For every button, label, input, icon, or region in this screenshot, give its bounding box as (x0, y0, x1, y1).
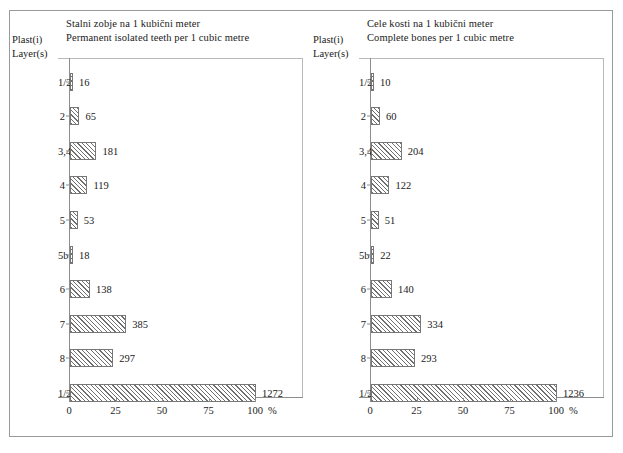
bar-row-label: 3,4 (58, 145, 65, 156)
bar-row: 6140 (359, 274, 604, 305)
bar (371, 315, 421, 333)
plot-area-right: 1/2102603,420441225515b226140733482931/2… (359, 58, 604, 398)
bar-row-label: 1/2 - 8 (359, 387, 366, 398)
bar-row-label: 3,4 (359, 145, 366, 156)
panel-container: Stalni zobje na 1 kubični meter Permanen… (10, 11, 612, 436)
x-axis-tick (209, 398, 210, 402)
x-axis-tick-label: 25 (110, 405, 121, 416)
bar (70, 176, 87, 194)
bar-value-label: 297 (113, 353, 135, 364)
bar-row: 8297 (58, 343, 303, 374)
bar-row: 1/210 (359, 66, 604, 97)
bar-rows-right: 1/2102603,420441225515b226140733482931/2… (359, 58, 604, 398)
bar-row-label: 5 (359, 214, 366, 225)
bar (70, 211, 78, 229)
plot-area-left: 1/2162653,418141195535b186138738582971/2… (58, 58, 303, 398)
figure-frame: Stalni zobje na 1 kubični meter Permanen… (9, 10, 613, 437)
x-axis-tick (116, 398, 117, 402)
bar-value-label: 65 (79, 111, 96, 122)
y-axis-caption-left-sl: Plast(i) (12, 33, 48, 47)
panel-title-right-en: Complete bones per 1 cubic metre (367, 31, 514, 45)
bar-row-label: 5b (58, 249, 65, 260)
bar (70, 280, 90, 298)
bar-row-label: 8 (58, 353, 65, 364)
bar-row-label: 1/2 (58, 76, 65, 87)
bar-row: 1/216 (58, 66, 303, 97)
x-axis-tick (69, 398, 70, 402)
bar-value-label: 16 (73, 76, 90, 87)
chart-panel-complete-bones: Cele kosti na 1 kubični meter Complete b… (311, 11, 612, 436)
bar-row: 5b22 (359, 239, 604, 270)
y-axis-caption-right-sl: Plast(i) (313, 33, 349, 47)
bar-value-label: 122 (389, 180, 411, 191)
x-axis-tick-label: 50 (458, 405, 469, 416)
bar-row-label: 2 (359, 111, 366, 122)
bar-value-label: 293 (415, 353, 437, 364)
bar-value-label: 51 (379, 214, 396, 225)
bar-row: 7385 (58, 308, 303, 339)
bar-row: 6138 (58, 274, 303, 305)
x-axis-tick (463, 398, 464, 402)
x-axis-tick-label: 75 (504, 405, 515, 416)
bar (371, 349, 415, 367)
bar-row: 5b18 (58, 239, 303, 270)
x-axis-tick-label: 0 (367, 405, 372, 416)
bar-row-label: 1/2 (359, 76, 366, 87)
chart-panel-permanent-isolated-teeth: Stalni zobje na 1 kubični meter Permanen… (10, 11, 311, 436)
bar-row-label: 4 (359, 180, 366, 191)
panel-title-right: Cele kosti na 1 kubični meter Complete b… (367, 17, 514, 44)
x-axis-right: % 0255075100 (359, 398, 604, 424)
bar-value-label: 334 (421, 318, 443, 329)
bar-value-label: 10 (374, 76, 391, 87)
bar-row-label: 5 (58, 214, 65, 225)
x-axis-tick-label: 0 (66, 405, 71, 416)
bar (70, 315, 126, 333)
x-axis-tick-label: 75 (203, 405, 214, 416)
bar-value-label: 138 (90, 284, 112, 295)
y-axis-caption-right-en: Layer(s) (313, 47, 349, 61)
panel-title-left-sl: Stalni zobje na 1 kubični meter (66, 17, 249, 31)
bar (371, 142, 402, 160)
bar-row: 3,4181 (58, 135, 303, 166)
x-axis-tick (162, 398, 163, 402)
x-axis-unit-right: % (569, 405, 578, 416)
bar-row-label: 6 (359, 284, 366, 295)
bar-value-label: 1272 (256, 387, 283, 398)
bar-row-label: 5b (359, 249, 366, 260)
bar-row: 8293 (359, 343, 604, 374)
panel-title-left: Stalni zobje na 1 kubični meter Permanen… (66, 17, 249, 44)
bar-rows-left: 1/2162653,418141195535b186138738582971/2… (58, 58, 303, 398)
x-axis-tick (255, 398, 256, 402)
bar-row: 3,4204 (359, 135, 604, 166)
bar-row: 7334 (359, 308, 604, 339)
bar-row-label: 1/2 - 8 (58, 387, 65, 398)
bar-value-label: 385 (126, 318, 148, 329)
bar-value-label: 204 (402, 145, 424, 156)
bar (371, 176, 389, 194)
x-axis-tick-label: 25 (411, 405, 422, 416)
bar (371, 107, 380, 125)
bar (70, 142, 96, 160)
bar-row-label: 8 (359, 353, 366, 364)
bar-row: 265 (58, 101, 303, 132)
x-axis-tick (417, 398, 418, 402)
bar-value-label: 181 (96, 145, 118, 156)
bar-row: 551 (359, 204, 604, 235)
bar-row: 553 (58, 204, 303, 235)
x-axis-tick-label: 50 (157, 405, 168, 416)
x-axis-tick (370, 398, 371, 402)
bar-row-label: 7 (359, 318, 366, 329)
bar-value-label: 18 (73, 249, 90, 260)
bar-value-label: 60 (380, 111, 397, 122)
x-axis-tick (510, 398, 511, 402)
x-axis-tick-label: 100 (247, 405, 263, 416)
bar (371, 211, 379, 229)
x-axis-tick (556, 398, 557, 402)
bar-value-label: 140 (392, 284, 414, 295)
panel-title-left-en: Permanent isolated teeth per 1 cubic met… (66, 31, 249, 45)
bar-row: 4122 (359, 170, 604, 201)
bar (70, 107, 79, 125)
bar-row-label: 2 (58, 111, 65, 122)
bar (371, 280, 392, 298)
bar-row: 260 (359, 101, 604, 132)
